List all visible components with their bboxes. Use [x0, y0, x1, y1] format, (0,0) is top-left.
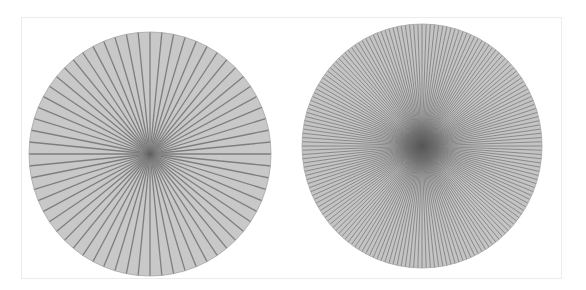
- center-hub: [140, 144, 160, 164]
- center-hub: [386, 110, 458, 182]
- dense-spoke-wheel: [298, 20, 546, 272]
- sparse-spoke-wheel: [25, 28, 275, 280]
- spoke-wheels-figure: [0, 0, 586, 290]
